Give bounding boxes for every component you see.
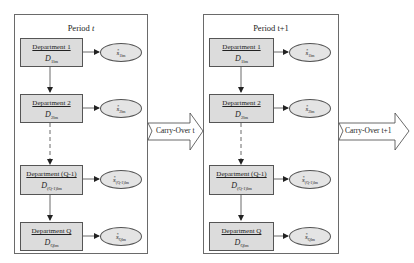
period-t1-department-2: Department 2 D2lm — [209, 94, 274, 123]
period-t1-output-2: s*2lm — [289, 99, 331, 118]
period-t-output-q: s*Qlm — [100, 227, 142, 246]
period-t1-department-q: Department Q DQlm — [209, 222, 274, 251]
demand-symbol: DQlm — [210, 239, 273, 249]
demand-symbol: D(Q-1)lm — [21, 182, 82, 192]
period-t-output-q-minus-1: s*(Q-1)lm — [100, 170, 142, 189]
period-t1-output-1: s*1lm — [289, 43, 331, 62]
period-t-department-q: Department Q DQlm — [20, 222, 83, 251]
period-t1-output-q: s*Qlm — [289, 227, 331, 246]
period-t-title: Period t — [15, 23, 147, 33]
carry-over-t-label: Carry-Over t — [156, 126, 195, 135]
period-t-department-1: Department 1 D1lm — [20, 38, 83, 67]
demand-symbol: D2lm — [210, 111, 273, 121]
demand-symbol: D(Q-1)lm — [210, 182, 273, 192]
period-t1-department-q-minus-1: Department (Q-1) D(Q-1)lm — [209, 165, 274, 195]
period-t-department-2: Department 2 D2lm — [20, 94, 83, 123]
demand-symbol: DQlm — [21, 239, 82, 249]
period-t1-title: Period t+1 — [204, 23, 338, 33]
demand-symbol: D1lm — [210, 55, 273, 65]
period-t-output-2: s*2lm — [100, 99, 142, 118]
period-t-department-q-minus-1: Department (Q-1) D(Q-1)lm — [20, 165, 83, 195]
demand-symbol: D1lm — [21, 55, 82, 65]
period-t1-department-1: Department 1 D1lm — [209, 38, 274, 67]
demand-symbol: D2lm — [21, 111, 82, 121]
period-t-output-1: s*1lm — [100, 43, 142, 62]
carry-over-t1-label: Carry-Over t+1 — [345, 126, 392, 135]
period-t1-output-q-minus-1: s*(Q-1)lm — [289, 170, 331, 189]
